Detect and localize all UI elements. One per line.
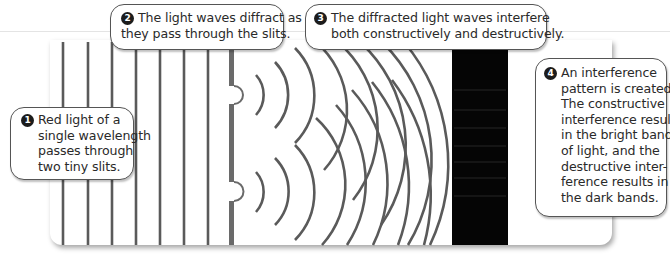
callout-text: in the bright band <box>544 127 666 143</box>
callout-step-1: 1Red light of a single wavelength passes… <box>10 107 134 180</box>
callout-text: of light, and the <box>544 143 666 159</box>
callout-text: two tiny slits. <box>21 159 133 175</box>
callout-text: both constructively and destructively. <box>314 26 544 42</box>
callout-text: Red light of a <box>38 112 120 127</box>
step-number-badge: 1 <box>21 114 34 127</box>
callout-text: An interference <box>561 65 657 80</box>
callout-text: pattern is created. <box>544 81 666 97</box>
callout-text: they pass through the slits. <box>121 26 281 42</box>
callout-text: interference results <box>544 112 666 128</box>
slit-openings <box>234 86 244 201</box>
callout-step-3: 3The diffracted light waves interfere bo… <box>305 4 547 50</box>
callout-step-4: 4An interference pattern is created. The… <box>535 58 667 217</box>
callout-text: the dark bands. <box>544 190 666 206</box>
slit-barrier <box>229 42 234 245</box>
callout-text: passes through <box>21 143 133 159</box>
step-number-badge: 4 <box>544 67 557 80</box>
step-number-badge: 2 <box>121 12 134 25</box>
upper-slit-wavefronts <box>256 42 448 245</box>
callout-text: ference results in <box>544 174 666 190</box>
callout-text: single wavelength <box>21 128 133 144</box>
callout-text: The diffracted light waves interfere <box>331 10 550 25</box>
callout-text: The constructive <box>544 96 666 112</box>
step-number-badge: 3 <box>314 12 327 25</box>
callout-text: destructive inter- <box>544 159 666 175</box>
callout-step-2: 2The light waves diffract as they pass t… <box>110 4 284 50</box>
callout-text: The light waves diffract as <box>138 10 302 25</box>
interference-screen <box>452 42 508 245</box>
